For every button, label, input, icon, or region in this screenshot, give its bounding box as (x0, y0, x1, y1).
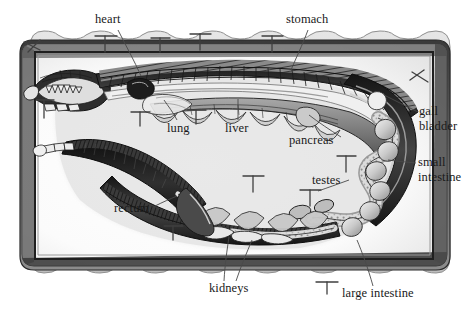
label-rectum: rectum (114, 202, 149, 216)
label-large-intestine: large intestine (342, 287, 414, 301)
pin-low-2 (316, 282, 338, 294)
label-stomach: stomach (286, 13, 328, 27)
label-testes: testes (312, 174, 340, 188)
label-kidneys: kidneys (209, 282, 249, 296)
tray-wall-left-shade (22, 44, 34, 266)
snake-dissection-illustration (0, 0, 466, 312)
label-heart: heart (95, 13, 120, 27)
label-liver: liver (225, 122, 248, 136)
label-small-intestine: small intestine (418, 155, 461, 184)
figure-canvas: heart stomach gall bladder small intesti… (0, 0, 466, 312)
label-lung: lung (167, 122, 190, 136)
label-pancreas: pancreas (289, 134, 334, 148)
label-gall-bladder: gall bladder (419, 104, 457, 133)
